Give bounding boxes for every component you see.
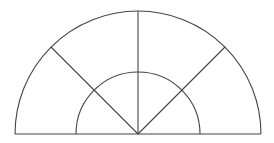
radial-line-45	[138, 47, 225, 134]
radial-lines	[51, 11, 225, 134]
radial-line-135	[51, 47, 138, 134]
semicircle-diagram	[0, 0, 274, 143]
